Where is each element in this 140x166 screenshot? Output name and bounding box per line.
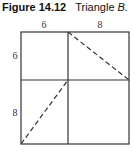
side-label-8: 8 (13, 107, 18, 118)
top-label-6: 6 (42, 19, 47, 30)
top-label-8: 8 (98, 19, 103, 30)
square-diagram: 6 8 6 8 (0, 0, 140, 166)
side-label-6: 6 (13, 50, 18, 61)
dashed-diagonal-bottom (21, 80, 68, 144)
outer-square (21, 32, 129, 144)
dashed-diagonal-top (68, 32, 129, 80)
